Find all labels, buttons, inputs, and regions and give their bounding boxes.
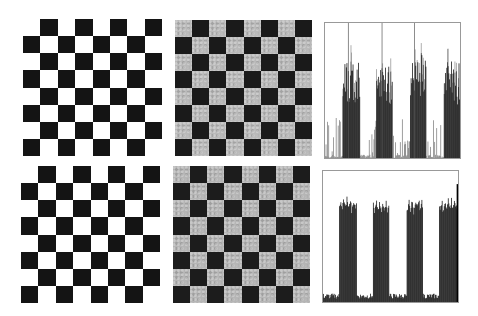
checker-square [207, 217, 224, 234]
checker-square [224, 217, 241, 234]
checker-square [110, 19, 127, 36]
checker-square [23, 139, 40, 156]
checker-square [207, 252, 224, 269]
checker-square [295, 37, 312, 54]
checker-square [75, 122, 92, 139]
checker-square [244, 88, 261, 105]
checker-square [226, 122, 243, 139]
bottom-smoothed-checkerboard [173, 166, 310, 303]
checker-square [108, 166, 125, 183]
top-histogram [324, 22, 461, 159]
checker-square [91, 269, 108, 286]
checker-square [295, 20, 312, 37]
checker-square [40, 70, 57, 87]
checker-square [38, 252, 55, 269]
checker-square [276, 235, 293, 252]
checker-square [23, 53, 40, 70]
checker-square [21, 235, 38, 252]
checker-square [93, 88, 110, 105]
checker-square [38, 166, 55, 183]
checker-square [91, 183, 108, 200]
checker-square [192, 54, 209, 71]
checker-square [244, 105, 261, 122]
checker-square [56, 286, 73, 303]
checker-square [143, 200, 160, 217]
checker-square [21, 166, 38, 183]
checker-square [58, 70, 75, 87]
checker-square [226, 139, 243, 156]
checker-square [91, 235, 108, 252]
checker-square [93, 36, 110, 53]
checker-square [293, 217, 310, 234]
checker-square [73, 286, 90, 303]
checker-square [75, 70, 92, 87]
checker-square [38, 286, 55, 303]
checker-square [278, 139, 295, 156]
checker-square [175, 105, 192, 122]
checker-square [276, 166, 293, 183]
checker-square [242, 217, 259, 234]
checker-square [224, 252, 241, 269]
checker-square [207, 183, 224, 200]
checker-square [173, 166, 190, 183]
checker-square [259, 235, 276, 252]
checker-square [244, 122, 261, 139]
checker-square [175, 37, 192, 54]
checker-square [259, 183, 276, 200]
checker-square [127, 122, 144, 139]
checker-square [143, 183, 160, 200]
checker-square [190, 286, 207, 303]
checker-square [21, 183, 38, 200]
checker-square [295, 88, 312, 105]
checker-square [209, 71, 226, 88]
checker-square [175, 139, 192, 156]
checker-square [261, 122, 278, 139]
checker-square [91, 200, 108, 217]
checker-square [207, 166, 224, 183]
checker-square [56, 217, 73, 234]
checker-square [56, 252, 73, 269]
checker-square [23, 19, 40, 36]
checker-square [58, 36, 75, 53]
checker-square [224, 286, 241, 303]
checker-square [293, 235, 310, 252]
checker-square [190, 252, 207, 269]
checker-square [278, 54, 295, 71]
checker-square [108, 235, 125, 252]
checker-square [244, 139, 261, 156]
checker-square [173, 235, 190, 252]
checker-square [21, 286, 38, 303]
checker-square [75, 88, 92, 105]
checker-square [73, 217, 90, 234]
checker-square [91, 217, 108, 234]
checker-square [23, 36, 40, 53]
checker-square [295, 139, 312, 156]
checker-square [224, 166, 241, 183]
checker-square [93, 70, 110, 87]
checker-square [244, 37, 261, 54]
checker-square [173, 252, 190, 269]
checker-square [226, 71, 243, 88]
checker-square [192, 139, 209, 156]
checker-square [259, 269, 276, 286]
checker-square [56, 269, 73, 286]
checker-square [295, 71, 312, 88]
checker-square [40, 122, 57, 139]
checker-square [242, 252, 259, 269]
checker-square [175, 122, 192, 139]
checker-square [276, 252, 293, 269]
checker-square [293, 200, 310, 217]
checker-square [143, 286, 160, 303]
checker-square [190, 183, 207, 200]
checker-square [190, 217, 207, 234]
checker-square [91, 166, 108, 183]
checker-square [21, 200, 38, 217]
checker-square [261, 20, 278, 37]
checker-square [173, 286, 190, 303]
checker-square [293, 183, 310, 200]
checker-square [125, 200, 142, 217]
checker-square [40, 19, 57, 36]
checker-square [261, 105, 278, 122]
checker-square [73, 252, 90, 269]
checker-square [75, 53, 92, 70]
